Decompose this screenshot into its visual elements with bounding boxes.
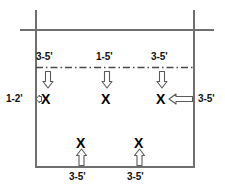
plant-marker-2: X: [101, 92, 110, 106]
plant-marker-1: X: [41, 92, 50, 106]
left-dim-label: 1-2': [6, 94, 22, 104]
bottom-right-dim-label: 3-5': [127, 172, 143, 182]
down-arrow-3: [157, 72, 167, 89]
top-center-dim-label: 1-5': [96, 52, 112, 62]
bottom-left-dim-label: 3-5': [69, 172, 85, 182]
top-right-dim-label: 3-5': [151, 52, 167, 62]
down-arrow-1: [43, 72, 53, 89]
top-left-dim-label: 3-5': [36, 52, 52, 62]
down-arrow-2: [102, 72, 112, 89]
diagram-canvas: [0, 0, 225, 194]
plant-marker-3: X: [156, 92, 165, 106]
spacing-diagram: 3-5' 1-5' 3-5' 1-2' 3-5' X X X X X 3-5' …: [0, 0, 225, 194]
up-arrow-1: [77, 149, 87, 166]
right-dim-label: 3-5': [198, 94, 214, 104]
plant-marker-4: X: [76, 136, 85, 150]
up-arrow-2: [135, 149, 145, 166]
left-arrow-large: [169, 94, 193, 104]
plant-marker-5: X: [134, 136, 143, 150]
